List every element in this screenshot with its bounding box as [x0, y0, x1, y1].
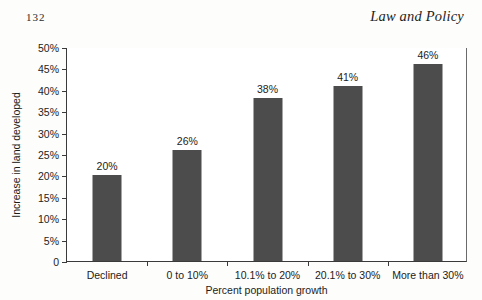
y-axis-tick	[62, 241, 67, 242]
y-axis-tick	[62, 155, 67, 156]
x-axis-tick	[308, 261, 309, 266]
y-axis-tick-label: 5%	[44, 235, 59, 247]
y-axis-title: Increase in land developed	[10, 48, 26, 262]
y-axis-tick	[62, 112, 67, 113]
y-axis-tick	[62, 91, 67, 92]
y-axis-tick-label: 20%	[38, 170, 59, 182]
bar-value-label: 46%	[417, 49, 438, 61]
y-axis-tick-label: 40%	[38, 85, 59, 97]
page-number: 132	[26, 11, 46, 23]
bar-value-label: 38%	[257, 83, 278, 95]
y-axis-tick-label: 25%	[38, 149, 59, 161]
y-axis-tick	[62, 134, 67, 135]
scanned-page: 132 Law and Policy 05%10%15%20%25%30%35%…	[0, 0, 482, 300]
bar: 41%	[333, 86, 362, 261]
x-axis-tick	[227, 261, 228, 266]
running-head: 132 Law and Policy	[0, 0, 482, 34]
bar-value-label: 41%	[337, 71, 358, 83]
x-axis-category-label: More than 30%	[392, 269, 463, 281]
y-axis-tick	[62, 48, 67, 49]
y-axis-tick	[62, 69, 67, 70]
x-axis-title: Percent population growth	[66, 284, 467, 296]
running-head-title: Law and Policy	[370, 8, 464, 25]
x-axis-tick	[388, 261, 389, 266]
bar: 38%	[253, 98, 282, 261]
y-axis-tick-label: 15%	[38, 192, 59, 204]
bar-chart: 05%10%15%20%25%30%35%40%45%50%20%Decline…	[0, 34, 482, 300]
y-axis-tick-label: 50%	[38, 42, 59, 54]
y-axis-tick-label: 30%	[38, 128, 59, 140]
bar-value-label: 20%	[97, 160, 118, 172]
bar: 26%	[173, 150, 202, 261]
plot-area: 05%10%15%20%25%30%35%40%45%50%20%Decline…	[66, 48, 467, 262]
y-axis-tick-label: 0	[53, 256, 59, 268]
y-axis-tick-label: 35%	[38, 106, 59, 118]
y-axis-tick-label: 45%	[38, 63, 59, 75]
x-axis-category-label: Declined	[87, 269, 128, 281]
x-axis-category-label: 0 to 10%	[167, 269, 208, 281]
bar: 46%	[413, 64, 442, 261]
x-axis-category-label: 10.1% to 20%	[235, 269, 300, 281]
y-axis-tick	[62, 262, 67, 263]
bar: 20%	[93, 175, 122, 261]
bar-value-label: 26%	[177, 135, 198, 147]
y-axis-tick	[62, 219, 67, 220]
x-axis-tick	[147, 261, 148, 266]
y-axis-tick	[62, 198, 67, 199]
y-axis-tick	[62, 176, 67, 177]
x-axis-category-label: 20.1% to 30%	[315, 269, 380, 281]
y-axis-tick-label: 10%	[38, 213, 59, 225]
